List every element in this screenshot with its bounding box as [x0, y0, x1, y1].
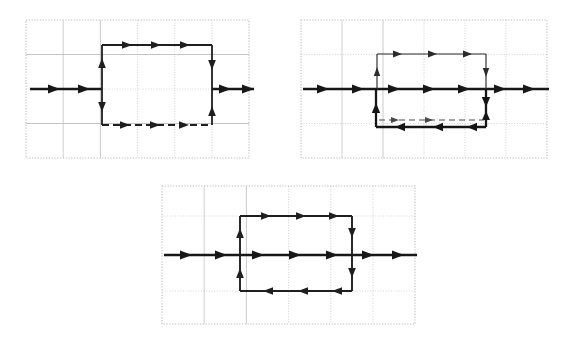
lower-loop-rect	[372, 89, 490, 131]
loop-bottom-edge-dashed	[102, 121, 212, 129]
figure-canvas	[0, 0, 575, 337]
panel-bottom-center	[156, 180, 424, 332]
loop-top-edge	[102, 41, 212, 49]
upper-loop-rect	[374, 51, 489, 89]
panel-3-drawing	[156, 180, 424, 332]
panel-top-left	[20, 14, 258, 166]
panel-top-right	[295, 14, 557, 166]
loop-left-edge	[98, 45, 106, 125]
panel-1-drawing	[20, 14, 258, 166]
loop-right-edge	[208, 45, 216, 125]
lower-loop-side-arrowheads	[372, 97, 490, 120]
panel-2-drawing	[295, 14, 557, 166]
inner-dashed-return-line	[379, 117, 484, 123]
axis-horizontal-through	[164, 251, 417, 260]
axis-horizontal-through	[303, 85, 549, 94]
